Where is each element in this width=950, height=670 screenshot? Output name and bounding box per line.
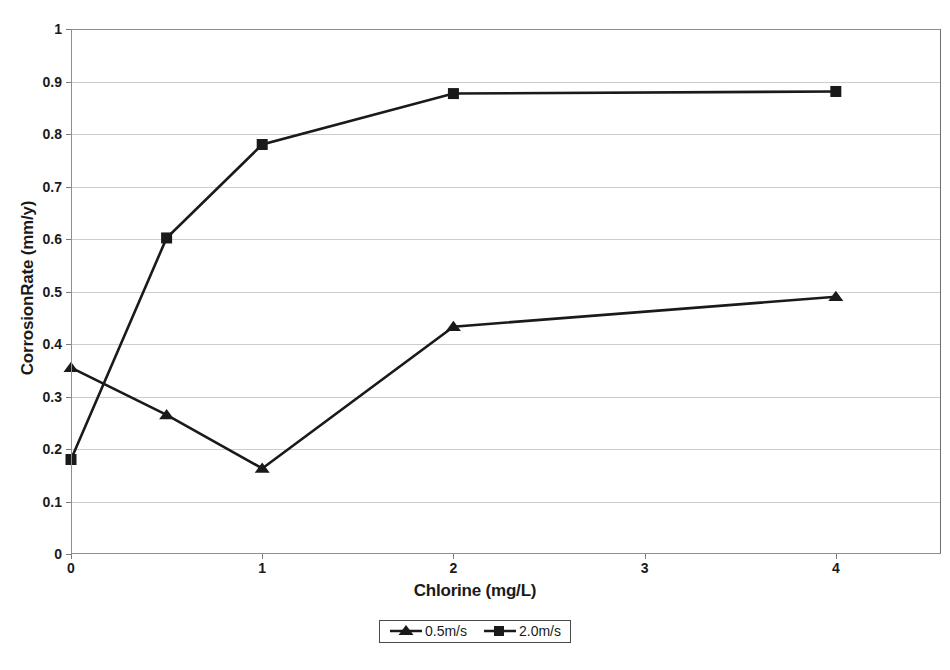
x-tick-mark xyxy=(71,554,72,559)
x-tick-mark xyxy=(262,554,263,559)
series-1 xyxy=(64,291,844,473)
legend-entry-2[interactable]: 2.0m/s xyxy=(483,624,561,638)
square-marker-icon xyxy=(830,86,841,97)
x-tick-mark xyxy=(645,554,646,559)
legend-entry-1[interactable]: 0.5m/s xyxy=(389,624,467,638)
legend-label: 2.0m/s xyxy=(519,624,561,638)
square-marker-icon xyxy=(66,454,77,465)
y-tick-label: 0.4 xyxy=(16,336,62,352)
square-marker-icon xyxy=(448,88,459,99)
corrosion-rate-line-chart: CorrosionRate (mm/y) 00.10.20.30.40.50.6… xyxy=(0,0,950,670)
square-marker-icon xyxy=(161,232,172,243)
x-tick-label: 0 xyxy=(51,560,91,576)
triangle-marker-icon xyxy=(159,409,174,419)
triangle-marker-icon xyxy=(389,624,423,638)
y-tick-label: 0.5 xyxy=(16,284,62,300)
triangle-marker-icon xyxy=(64,362,79,372)
y-tick-label: 0.7 xyxy=(16,179,62,195)
y-tick-label: 1 xyxy=(16,21,62,37)
chart-legend: 0.5m/s2.0m/s xyxy=(379,620,571,643)
square-marker-icon xyxy=(257,139,268,150)
x-tick-mark xyxy=(836,554,837,559)
x-tick-label: 1 xyxy=(242,560,282,576)
y-tick-label: 0.3 xyxy=(16,389,62,405)
x-axis-title: Chlorine (mg/L) xyxy=(0,581,950,601)
square-marker-icon xyxy=(483,624,517,638)
series-line xyxy=(71,91,836,459)
legend-label: 0.5m/s xyxy=(425,624,467,638)
y-tick-label: 0.6 xyxy=(16,231,62,247)
x-tick-label: 2 xyxy=(433,560,473,576)
x-tick-label: 4 xyxy=(816,560,856,576)
y-tick-label: 0.2 xyxy=(16,441,62,457)
y-tick-label: 0.8 xyxy=(16,126,62,142)
y-tick-label: 0.9 xyxy=(16,74,62,90)
x-tick-label: 3 xyxy=(625,560,665,576)
series-layer xyxy=(71,29,941,554)
y-tick-label: 0.1 xyxy=(16,494,62,510)
x-tick-mark xyxy=(453,554,454,559)
plot-area xyxy=(71,29,941,554)
series-2 xyxy=(66,86,842,465)
